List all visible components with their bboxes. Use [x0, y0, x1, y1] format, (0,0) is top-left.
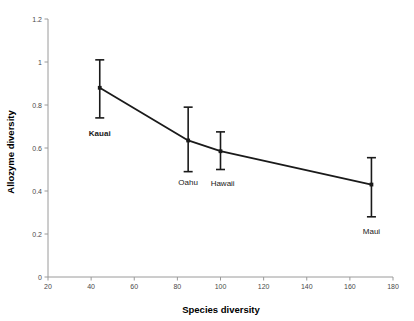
x-tick-label: 180: [387, 283, 399, 290]
y-axis-title: Allozyme diversity: [5, 110, 16, 194]
x-tick-label: 80: [173, 283, 181, 290]
x-axis-title: Species diversity: [182, 304, 260, 315]
point-label-kauai: Kauai: [89, 129, 111, 138]
y-tick-label: 1: [38, 59, 42, 66]
y-tick-label: 0.4: [32, 188, 42, 195]
point-label-oahu: Oahu: [178, 178, 198, 187]
x-tick-label: 160: [344, 283, 356, 290]
y-tick-label: 1.2: [32, 16, 42, 23]
chart-figure: 20406080100120140160180 00.20.40.60.811.…: [0, 0, 414, 321]
y-axis-tick-labels: 00.20.40.60.811.2: [32, 16, 42, 281]
x-tick-label: 100: [215, 283, 227, 290]
y-tick-label: 0.2: [32, 231, 42, 238]
y-tick-label: 0.8: [32, 102, 42, 109]
point-annotations: KauaiOahuHawaiiMaui: [89, 129, 380, 236]
point-label-hawaii: Hawaii: [211, 179, 235, 188]
y-tick-label: 0: [38, 274, 42, 281]
x-tick-label: 40: [87, 283, 95, 290]
data-point-marker: [370, 183, 374, 187]
y-tick-label: 0.6: [32, 145, 42, 152]
x-tick-label: 120: [258, 283, 270, 290]
x-tick-label: 20: [44, 283, 52, 290]
x-tick-label: 60: [130, 283, 138, 290]
x-tick-label: 140: [301, 283, 313, 290]
scatter-line-plot: 20406080100120140160180 00.20.40.60.811.…: [0, 0, 414, 321]
series-line-path: [100, 88, 372, 185]
data-point-marker: [186, 139, 190, 143]
data-series: [100, 88, 372, 185]
point-label-maui: Maui: [363, 227, 381, 236]
data-markers: [98, 86, 373, 187]
data-point-marker: [219, 149, 223, 153]
x-axis-tick-labels: 20406080100120140160180: [44, 283, 399, 290]
data-point-marker: [98, 86, 102, 90]
error-bars: [95, 60, 376, 217]
